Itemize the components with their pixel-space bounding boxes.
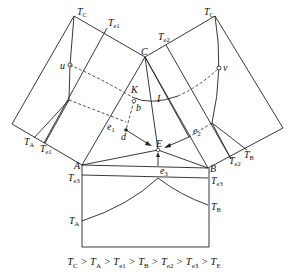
line-A-E	[82, 150, 158, 165]
dash-left-e1	[69, 100, 126, 122]
label-Te3-left: Te3	[68, 172, 80, 184]
line-C-e2	[145, 57, 189, 137]
label-TB-right: TB	[244, 149, 255, 161]
left-panel-te1-line	[44, 28, 107, 143]
label-TA-bottom: TA	[69, 215, 80, 227]
dash-b-d	[126, 101, 134, 130]
label-Te1-top: Te1	[108, 17, 120, 29]
label-TA-left: TA	[24, 136, 35, 148]
label-v: v	[223, 62, 228, 73]
bottom-liquidus-a	[82, 178, 158, 221]
arrowhead-e2E	[164, 143, 171, 148]
right-panel-te2-line	[166, 45, 231, 159]
label-K: K	[130, 84, 139, 95]
label-TC-left: TC	[77, 6, 87, 18]
bottom-liquidus-b	[158, 178, 208, 205]
phase-diagram: TC Te1 TC Te2 C u v K I b d e1 e2 E e3 A…	[0, 0, 288, 279]
bottom-te3-line	[82, 175, 208, 178]
arrowhead-e3E	[156, 152, 160, 157]
dash-I-v	[178, 68, 219, 96]
temperature-order-caption: TC > TA > Te1 > TB > Te2 > Te3 > TE	[0, 256, 288, 270]
dash-u-K	[70, 65, 132, 97]
label-Te3-right: Te3	[211, 175, 223, 187]
label-A: A	[73, 160, 81, 171]
label-d: d	[121, 131, 127, 142]
label-u: u	[60, 60, 65, 71]
right-liquidus-b	[212, 123, 247, 150]
label-E: E	[155, 138, 162, 149]
label-Te2-top: Te2	[158, 31, 170, 43]
ternary-triangle	[82, 57, 208, 168]
line-B-E	[158, 150, 208, 168]
isotherm-KI	[132, 96, 178, 101]
label-TB-bottom: TB	[211, 201, 222, 213]
label-e1: e1	[107, 121, 115, 133]
label-B: B	[210, 163, 216, 174]
label-Te1-left: Te1	[40, 143, 52, 155]
label-e2: e2	[193, 125, 201, 137]
label-TC-right: TC	[204, 6, 214, 18]
label-C: C	[141, 46, 148, 57]
label-I: I	[156, 93, 161, 104]
left-liquidus-a	[34, 100, 69, 138]
label-Te2-right: Te2	[229, 155, 241, 167]
right-liquidus-e2	[212, 123, 231, 159]
arrowhead-dE	[145, 141, 152, 146]
label-b: b	[136, 102, 141, 113]
left-liquidus	[69, 16, 74, 100]
